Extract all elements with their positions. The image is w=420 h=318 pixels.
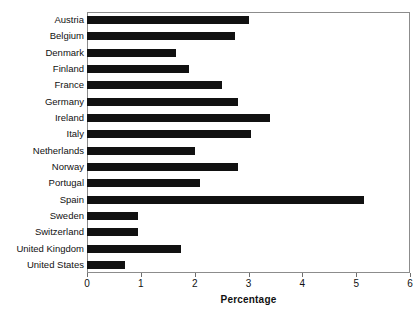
bar	[87, 228, 138, 236]
x-tick-mark	[141, 273, 142, 277]
category-label: United States	[0, 260, 84, 270]
x-tick-label: 5	[344, 278, 368, 290]
x-tick-mark	[249, 273, 250, 277]
category-label: Portugal	[0, 178, 84, 188]
category-label: Ireland	[0, 113, 84, 123]
x-tick-mark	[356, 273, 357, 277]
bar	[87, 147, 195, 155]
bar-chart: AustriaBelgiumDenmarkFinlandFranceGerman…	[0, 0, 420, 318]
bar	[87, 261, 125, 269]
bars-layer	[87, 12, 410, 273]
category-label: Switzerland	[0, 227, 84, 237]
x-tick-label: 0	[75, 278, 99, 290]
x-tick-label: 6	[398, 278, 420, 290]
category-label: France	[0, 80, 84, 90]
category-label: Denmark	[0, 48, 84, 58]
category-label: Finland	[0, 64, 84, 74]
bar	[87, 114, 270, 122]
bar	[87, 65, 189, 73]
bar	[87, 16, 249, 24]
category-label: Germany	[0, 97, 84, 107]
category-label: Norway	[0, 162, 84, 172]
x-tick-label: 3	[237, 278, 261, 290]
x-tick-label: 2	[183, 278, 207, 290]
x-tick-label: 4	[290, 278, 314, 290]
bar	[87, 163, 238, 171]
bar	[87, 212, 138, 220]
bar	[87, 179, 200, 187]
category-label: Italy	[0, 129, 84, 139]
x-tick-mark	[195, 273, 196, 277]
category-label: Austria	[0, 15, 84, 25]
x-tick-mark	[87, 273, 88, 277]
x-tick-mark	[410, 273, 411, 277]
bar	[87, 49, 176, 57]
bar	[87, 130, 251, 138]
bar	[87, 98, 238, 106]
bar	[87, 81, 222, 89]
category-label: Belgium	[0, 31, 84, 41]
x-tick-label: 1	[129, 278, 153, 290]
category-label: United Kingdom	[0, 244, 84, 254]
bar	[87, 245, 181, 253]
x-tick-mark	[302, 273, 303, 277]
bar	[87, 32, 235, 40]
bar	[87, 196, 364, 204]
category-axis-labels: AustriaBelgiumDenmarkFinlandFranceGerman…	[0, 12, 84, 273]
category-label: Netherlands	[0, 146, 84, 156]
category-label: Sweden	[0, 211, 84, 221]
x-axis-title: Percentage	[87, 294, 410, 305]
category-label: Spain	[0, 195, 84, 205]
